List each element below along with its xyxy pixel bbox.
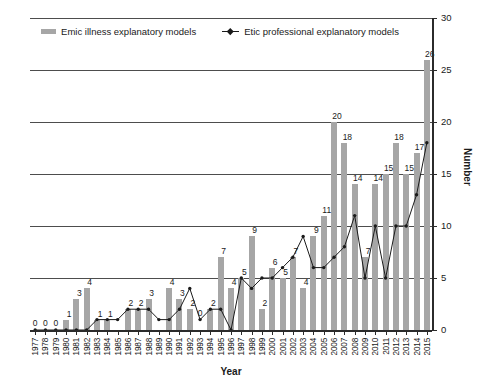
x-tick <box>56 331 57 335</box>
x-tick-label: 2014 <box>413 338 422 355</box>
line-marker <box>198 318 201 321</box>
x-tick <box>200 331 201 335</box>
x-tick-label: 1998 <box>248 338 257 355</box>
bar-value-label: 4 <box>79 277 101 287</box>
line-marker <box>271 276 274 279</box>
x-tick-label: 2004 <box>309 338 318 355</box>
bar-value-label: 7 <box>213 246 235 256</box>
x-tick-label: 2011 <box>382 338 391 355</box>
x-tick-label: 1997 <box>237 338 246 355</box>
y-axis-title: Number <box>462 148 473 186</box>
x-tick <box>87 331 88 335</box>
x-tick-label: 1979 <box>52 338 61 355</box>
x-tick-label: 1988 <box>145 338 154 355</box>
bar-value-label: 4 <box>223 277 245 287</box>
x-tick-label: 2008 <box>351 338 360 355</box>
bar-value-label: 9 <box>305 225 327 235</box>
x-tick <box>386 331 387 335</box>
x-tick-label: 1977 <box>31 338 40 355</box>
line-marker <box>394 224 397 227</box>
x-tick <box>76 331 77 335</box>
x-tick-label: 1989 <box>155 338 164 355</box>
bar-value-label: 26 <box>419 49 441 59</box>
x-tick-label: 2013 <box>402 338 411 355</box>
x-tick-label: 1980 <box>62 338 71 355</box>
x-tick-label: 1985 <box>114 338 123 355</box>
x-tick <box>159 331 160 335</box>
line-marker <box>363 276 366 279</box>
bar-value-label: 14 <box>347 173 369 183</box>
x-tick-label: 1993 <box>196 338 205 355</box>
x-tick-label: 1992 <box>186 338 195 355</box>
x-tick <box>118 331 119 335</box>
x-axis-title: Year <box>30 366 432 377</box>
line-marker <box>167 318 170 321</box>
bar-value-label: 9 <box>244 225 266 235</box>
y-tick <box>432 18 437 19</box>
y-tick <box>432 226 437 227</box>
x-tick <box>375 331 376 335</box>
line-marker <box>178 308 181 311</box>
x-tick <box>355 331 356 335</box>
bar-value-label: 7 <box>285 246 307 256</box>
x-tick-label: 2006 <box>330 338 339 355</box>
y-tick <box>432 330 437 331</box>
bar-value-label: 5 <box>275 267 297 277</box>
x-tick-label: 1991 <box>175 338 184 355</box>
line-marker <box>343 245 346 248</box>
x-tick <box>149 331 150 335</box>
line-marker <box>260 276 263 279</box>
bar-value-label: 15 <box>398 163 420 173</box>
x-tick <box>179 331 180 335</box>
x-tick-label: 2010 <box>371 338 380 355</box>
x-tick <box>241 331 242 335</box>
y-tick <box>432 174 437 175</box>
bar-value-label: 17 <box>409 142 431 152</box>
bar-value-label: 7 <box>357 246 379 256</box>
x-tick-label: 1984 <box>103 338 112 355</box>
x-tick <box>406 331 407 335</box>
line-marker <box>405 224 408 227</box>
line-marker <box>312 266 315 269</box>
x-tick-label: 2005 <box>320 338 329 355</box>
x-tick-label: 1995 <box>217 338 226 355</box>
x-tick-label: 2000 <box>268 338 277 355</box>
bar-value-label: 2 <box>254 298 276 308</box>
x-tick <box>293 331 294 335</box>
y-tick-label: 15 <box>441 169 452 179</box>
bar-value-label: 4 <box>161 277 183 287</box>
x-tick <box>427 331 428 335</box>
bar-value-label: 5 <box>233 267 255 277</box>
bar-value-label: 14 <box>367 173 389 183</box>
line-marker <box>384 276 387 279</box>
x-tick-label: 2007 <box>340 338 349 355</box>
line-marker <box>250 287 253 290</box>
x-tick <box>128 331 129 335</box>
x-tick <box>417 331 418 335</box>
x-tick <box>231 331 232 335</box>
x-tick <box>262 331 263 335</box>
x-tick <box>35 331 36 335</box>
y-tick-label: 20 <box>441 117 452 127</box>
x-tick <box>66 331 67 335</box>
x-tick-label: 2001 <box>279 338 288 355</box>
bar-value-label: 18 <box>388 132 410 142</box>
x-tick-label: 2002 <box>289 338 298 355</box>
bar-value-label: 18 <box>336 132 358 142</box>
x-tick-label: 1999 <box>258 338 267 355</box>
x-tick-label: 1987 <box>134 338 143 355</box>
x-tick-label: 2015 <box>423 338 432 355</box>
x-tick-label: 1996 <box>227 338 236 355</box>
y-tick-label: 10 <box>441 221 452 231</box>
x-tick <box>283 331 284 335</box>
line-marker <box>353 214 356 217</box>
line-marker <box>332 256 335 259</box>
x-tick-label: 1978 <box>41 338 50 355</box>
x-tick-label: 1994 <box>206 338 215 355</box>
x-tick-label: 2012 <box>392 338 401 355</box>
x-tick <box>365 331 366 335</box>
x-tick <box>344 331 345 335</box>
x-tick <box>396 331 397 335</box>
x-tick <box>272 331 273 335</box>
bar-value-label: 2 <box>130 298 152 308</box>
